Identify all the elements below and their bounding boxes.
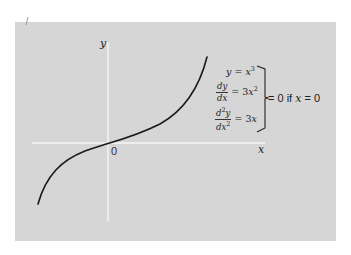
equation-second-derivative: d2y dx2 = 3x — [215, 107, 257, 131]
equation-y-equals-x-cubed: y = x3 — [226, 66, 255, 77]
cubic-curve — [38, 57, 207, 204]
origin-label: 0 — [111, 146, 117, 157]
fraction-dy-dx: dy dx — [216, 82, 228, 102]
plot-area — [0, 0, 351, 255]
right-bracket — [257, 66, 268, 132]
equation-first-derivative: dy dx = 3x2 — [216, 82, 258, 102]
fraction-d2y-dx2: d2y dx2 — [215, 107, 231, 131]
y-axis-label: y — [100, 38, 106, 49]
x-axis-label: x — [258, 144, 264, 155]
zero-condition-text: = 0 if x = 0 — [268, 93, 320, 104]
